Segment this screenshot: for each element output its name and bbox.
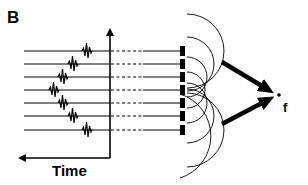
focal-point <box>277 93 281 97</box>
transducer-2 <box>180 59 185 69</box>
channel-lines <box>24 51 180 130</box>
wavefronts <box>180 14 224 178</box>
pulse-3 <box>58 69 68 84</box>
wavefront-1 <box>187 14 224 88</box>
transducer-5 <box>180 98 185 108</box>
panel-label: B <box>7 9 19 26</box>
transducer-3 <box>180 72 185 82</box>
pulse-6 <box>68 108 78 123</box>
focus-arrow-upper <box>222 62 262 86</box>
transducer-7 <box>180 125 185 135</box>
pulse-1 <box>82 43 92 58</box>
pulse-4 <box>49 82 59 97</box>
focus-point-label: f <box>283 101 287 114</box>
transducer-1 <box>180 46 185 56</box>
wavefront-7 <box>187 93 224 167</box>
time-axis-label: Time <box>52 163 87 178</box>
pulse-5 <box>58 95 68 110</box>
transducer-6 <box>180 111 185 121</box>
wavefront-6 <box>187 89 214 143</box>
transducer-array <box>180 46 185 135</box>
focus-arrow-lower <box>222 103 262 124</box>
beamforming-diagram <box>0 0 308 185</box>
focus-arrows <box>222 62 262 124</box>
pulse-7 <box>82 122 92 137</box>
transducer-4 <box>180 85 185 95</box>
wavefront-2 <box>187 37 214 91</box>
pulse-2 <box>68 56 78 71</box>
